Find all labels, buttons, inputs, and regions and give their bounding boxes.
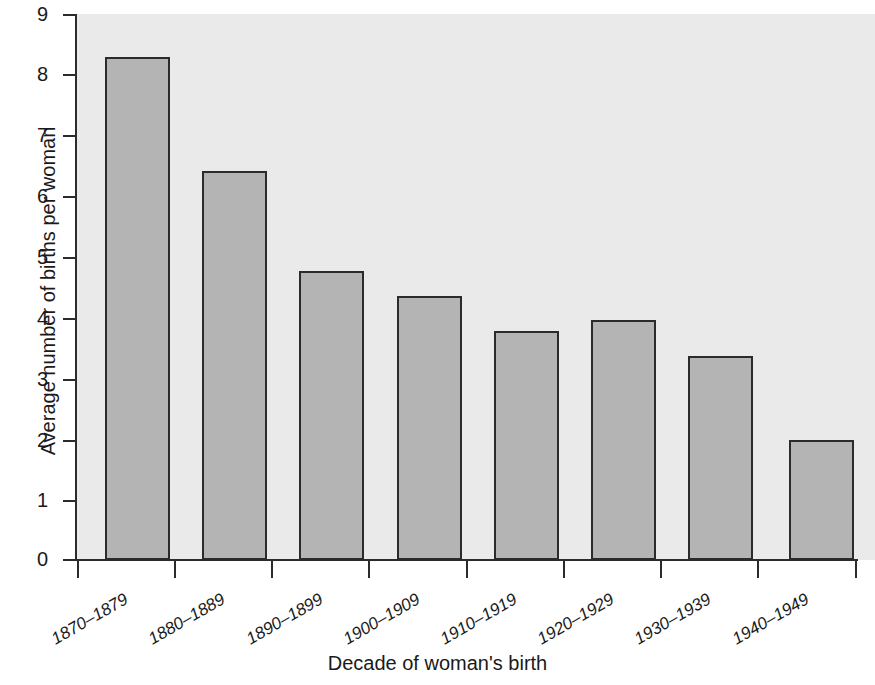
x-axis-category-label: 1920–1929 xyxy=(534,589,617,648)
y-axis-tick xyxy=(63,379,75,381)
y-axis-title: Average number of births per woman xyxy=(37,21,59,561)
x-axis-category-label: 1910–1919 xyxy=(437,589,520,648)
x-axis-tick xyxy=(174,561,176,578)
x-axis-tick xyxy=(466,561,468,578)
y-axis-tick xyxy=(63,559,75,561)
y-axis-tick xyxy=(63,135,75,137)
x-axis-category-label: 1930–1939 xyxy=(631,589,714,648)
x-axis-category-label: 1890–1899 xyxy=(243,589,326,648)
bar-1910-1919 xyxy=(494,331,559,560)
x-axis-tick xyxy=(757,561,759,578)
bar-chart-figure: 9 8 7 6 5 4 3 2 1 0 1870–1879 1880–1889 … xyxy=(0,0,875,685)
x-axis-category-label: 1870–1879 xyxy=(48,589,131,648)
bar-1930-1939 xyxy=(688,356,753,560)
x-axis-category-label: 1940–1949 xyxy=(729,589,812,648)
y-axis-tick xyxy=(63,257,75,259)
x-axis-tick xyxy=(77,561,79,578)
bar-1940-1949 xyxy=(789,440,854,560)
bar-1920-1929 xyxy=(591,320,656,560)
x-axis-category-label: 1900–1909 xyxy=(340,589,423,648)
bar-1890-1899 xyxy=(299,271,364,560)
bar-1870-1879 xyxy=(105,57,170,560)
plot-area xyxy=(76,14,875,560)
x-axis-title: Decade of woman's birth xyxy=(0,652,875,674)
x-axis-tick xyxy=(563,561,565,578)
x-axis-tick xyxy=(855,561,857,578)
x-axis-tick xyxy=(368,561,370,578)
y-axis-tick xyxy=(63,196,75,198)
bar-1900-1909 xyxy=(397,296,462,560)
x-axis-category-label: 1880–1889 xyxy=(145,589,228,648)
y-axis-line xyxy=(75,14,77,561)
x-axis-tick xyxy=(660,561,662,578)
y-axis-tick xyxy=(63,440,75,442)
x-axis-tick xyxy=(271,561,273,578)
y-axis-tick xyxy=(63,74,75,76)
bar-1880-1889 xyxy=(202,171,267,560)
y-axis-tick xyxy=(63,318,75,320)
y-axis-tick xyxy=(63,500,75,502)
y-axis-tick xyxy=(63,14,75,16)
